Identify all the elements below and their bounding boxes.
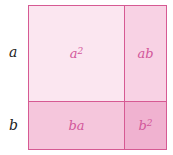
cell-a-squared: a2 <box>29 6 124 101</box>
cell-b-squared: b2 <box>124 101 166 149</box>
cell-a-squared-exponent: 2 <box>78 46 84 56</box>
cell-a-squared-base: a <box>70 46 78 61</box>
cell-ba: ba <box>29 101 124 149</box>
cell-b-squared-base: b <box>138 118 146 133</box>
side-label-a: a <box>9 44 17 60</box>
cell-b-squared-exponent: 2 <box>147 118 153 128</box>
cell-ab-label: ab <box>137 46 153 61</box>
area-square: a2 ab ba b2 <box>28 5 167 150</box>
cell-ba-label: ba <box>68 118 84 133</box>
side-label-b: b <box>9 117 18 133</box>
cell-ab: ab <box>124 6 166 101</box>
